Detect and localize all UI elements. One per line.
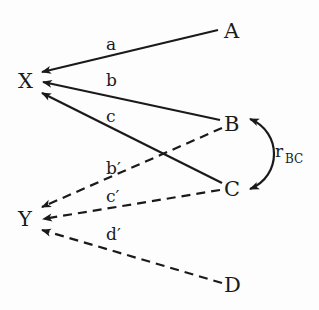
node-y: Y (17, 207, 33, 231)
edge-b-prime-arrow (42, 128, 222, 207)
node-x: X (18, 69, 33, 93)
label-r: r (275, 141, 284, 161)
path-diagram: X Y A B C D a b c b′ c′ d′ r BC (0, 0, 319, 310)
label-b-prime: b′ (106, 158, 121, 178)
label-b: b (106, 70, 117, 90)
label-a: a (106, 34, 116, 54)
label-c: c (106, 106, 116, 126)
edge-c-arrow (42, 93, 222, 183)
edge-d-prime-arrow (42, 230, 222, 283)
label-r-subscript: BC (285, 152, 303, 166)
node-b: B (224, 112, 239, 136)
node-a: A (223, 19, 240, 43)
label-c-prime: c′ (106, 186, 120, 206)
label-d-prime: d′ (106, 224, 121, 244)
node-d: D (224, 273, 241, 297)
edge-b-arrow (43, 82, 220, 120)
correlation-bc-arrow (250, 119, 274, 189)
node-c: C (224, 177, 240, 201)
edge-a-arrow (42, 30, 218, 72)
